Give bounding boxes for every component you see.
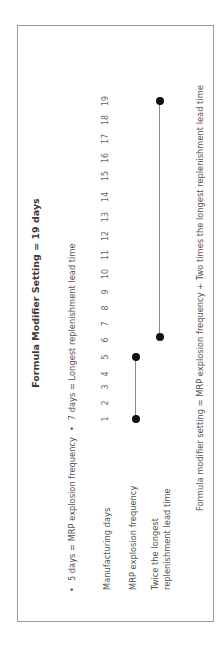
day-number: 8 xyxy=(101,305,110,310)
mrp-frequency-line xyxy=(135,357,136,419)
formula-caption: Formula modifier setting = MRP explosion… xyxy=(195,85,205,511)
mrp-end-dot-icon xyxy=(132,353,140,361)
day-number: 15 xyxy=(101,171,110,181)
lead-time-line xyxy=(159,101,160,337)
day-number: 1 xyxy=(101,416,110,421)
day-number: 14 xyxy=(101,192,110,202)
day-number: 19 xyxy=(101,96,110,106)
day-number: 16 xyxy=(101,153,110,163)
row-label-manufacturing-days: Manufacturing days xyxy=(102,508,112,590)
row-label-twice-longest-line2: replenishment lead time xyxy=(162,488,172,590)
day-number: 10 xyxy=(101,269,110,279)
day-number: 9 xyxy=(101,289,110,294)
row-label-twice-longest-line1: Twice the longest xyxy=(150,518,160,590)
day-number: 11 xyxy=(101,250,110,260)
day-number: 12 xyxy=(101,231,110,241)
day-number: 17 xyxy=(101,134,110,144)
bullet-list: •5 days = MRP explosion frequency•7 days… xyxy=(67,243,77,592)
bullet-icon: • xyxy=(67,587,77,592)
day-number: 4 xyxy=(101,371,110,376)
day-number: 6 xyxy=(101,337,110,342)
lead-time-end-dot-icon xyxy=(156,97,164,105)
lead-time-start-dot-icon xyxy=(156,333,164,341)
bullet-icon: • xyxy=(67,426,77,431)
bullet-item: 7 days = Longest replenishment lead time xyxy=(67,243,77,420)
bullet-item: 5 days = MRP explosion frequency xyxy=(67,437,77,581)
day-number: 18 xyxy=(101,115,110,125)
day-number: 5 xyxy=(101,354,110,359)
row-label-mrp-explosion-frequency: MRP explosion frequency xyxy=(128,486,138,590)
day-number: 7 xyxy=(101,321,110,326)
day-number: 2 xyxy=(101,400,110,405)
diagram-frame: Formula Modifier Setting = 19 days •5 da… xyxy=(17,25,214,622)
diagram-title: Formula Modifier Setting = 19 days xyxy=(30,198,41,388)
mrp-start-dot-icon xyxy=(132,415,140,423)
diagram-canvas: Formula Modifier Setting = 19 days •5 da… xyxy=(18,26,215,623)
day-number: 3 xyxy=(101,384,110,389)
day-number: 13 xyxy=(101,212,110,222)
